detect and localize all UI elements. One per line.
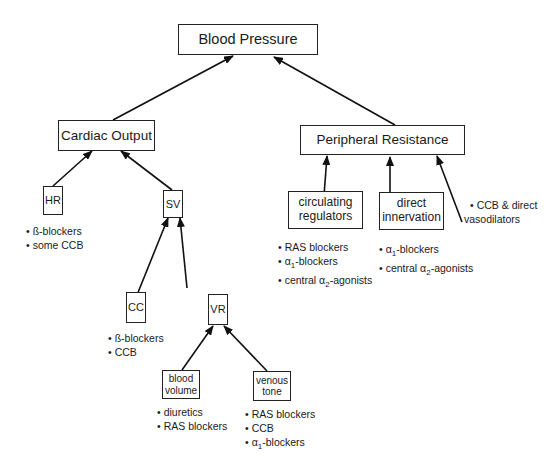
drug-item: CCB & direct: [470, 198, 537, 212]
node-label: volume: [165, 385, 197, 397]
node-label: VR: [210, 303, 225, 316]
drug-item: α1-blockers: [379, 242, 473, 261]
drug-list-cc: ß-blockers CCB: [108, 331, 164, 359]
node-label: blood: [169, 373, 193, 385]
node-label: innervation: [382, 211, 441, 225]
node-venous-tone: venous tone: [253, 371, 291, 401]
drug-item: some CCB: [26, 238, 83, 252]
node-label: Cardiac Output: [61, 128, 152, 144]
drug-item: α1-blockers: [278, 254, 372, 273]
drug-list-circulating-regulators: RAS blockers α1-blockers central α2-agon…: [278, 240, 372, 292]
drug-item: α1-blockers: [245, 435, 315, 454]
drug-list-blood-volume: diuretics RAS blockers: [157, 405, 227, 433]
drug-item: RAS blockers: [157, 419, 227, 433]
node-cc: CC: [126, 292, 146, 323]
node-label: HR: [45, 194, 61, 207]
node-label: Blood Pressure: [198, 31, 297, 48]
node-label: venous: [256, 375, 288, 387]
node-vr: VR: [208, 294, 228, 325]
drug-list-vasodilators: CCB & direct vasodilators: [470, 198, 537, 226]
drug-item: CCB: [245, 421, 315, 435]
drug-item: diuretics: [157, 405, 227, 419]
node-sv: SV: [163, 190, 183, 218]
drug-item: RAS blockers: [278, 240, 372, 254]
drug-list-direct-innervation: α1-blockers central α2-agonists: [379, 242, 473, 280]
drug-item: ß-blockers: [26, 224, 83, 238]
drug-item: RAS blockers: [245, 407, 315, 421]
node-circulating-regulators: circulating regulators: [288, 191, 363, 229]
drug-list-hr: ß-blockers some CCB: [26, 224, 83, 252]
drug-list-venous-tone: RAS blockers CCB α1-blockers: [245, 407, 315, 454]
drug-item: central α2-agonists: [379, 261, 473, 280]
node-blood-pressure: Blood Pressure: [178, 24, 318, 55]
drug-item: CCB: [108, 345, 164, 359]
node-hr: HR: [43, 186, 63, 215]
node-label: tone: [262, 386, 281, 398]
node-label: Peripheral Resistance: [316, 132, 448, 148]
node-label: CC: [128, 301, 144, 314]
node-label: regulators: [299, 210, 352, 224]
node-label: direct: [397, 197, 426, 211]
node-label: SV: [166, 198, 181, 211]
node-label: circulating: [298, 196, 352, 210]
drug-item-continued: vasodilators: [464, 212, 537, 226]
node-blood-volume: blood volume: [162, 370, 200, 399]
node-peripheral-resistance: Peripheral Resistance: [300, 125, 465, 155]
node-direct-innervation: direct innervation: [379, 192, 444, 230]
drug-item: ß-blockers: [108, 331, 164, 345]
drug-item: central α2-agonists: [278, 273, 372, 292]
node-cardiac-output: Cardiac Output: [58, 120, 155, 151]
